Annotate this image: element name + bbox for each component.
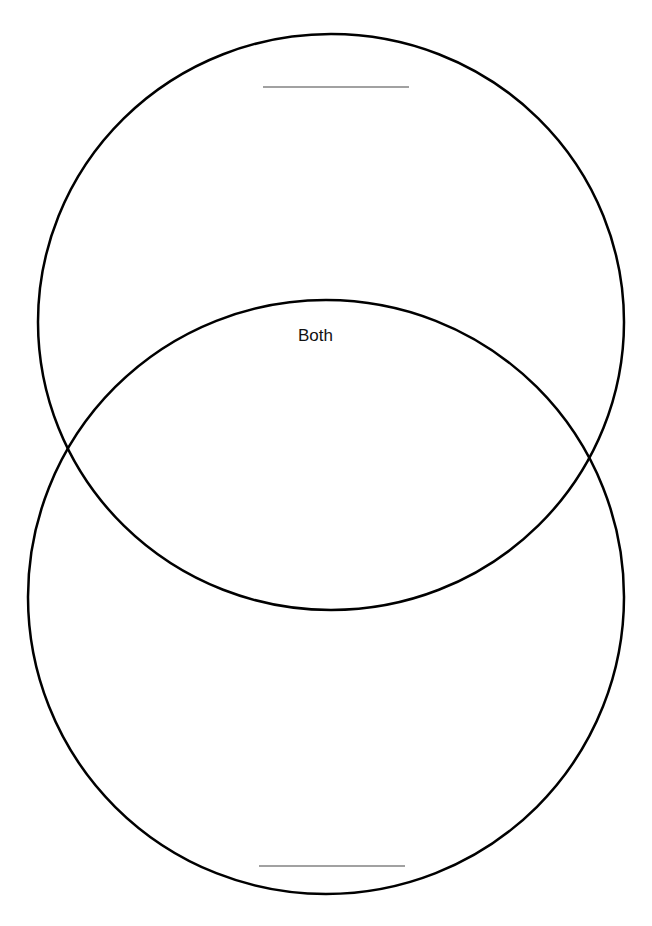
top-circle (38, 34, 624, 610)
venn-diagram (0, 0, 652, 926)
bottom-circle (28, 300, 624, 894)
overlap-label: Both (298, 326, 333, 346)
